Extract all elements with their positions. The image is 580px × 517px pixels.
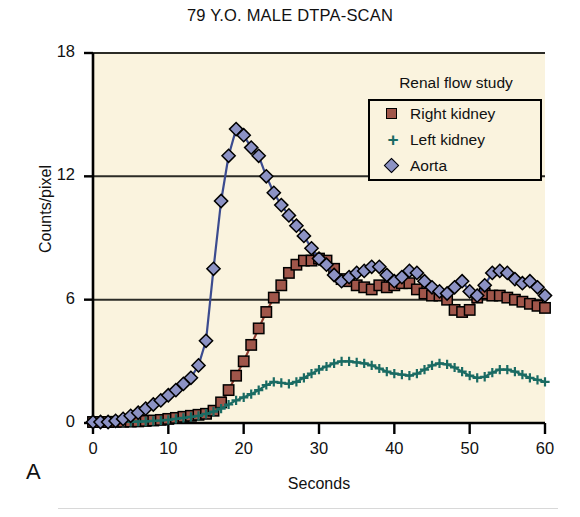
x-tick-label-50: 50 (450, 439, 490, 458)
marker-right-kidney-19 (231, 371, 241, 381)
marker-right-kidney-22 (254, 323, 264, 333)
figure-panel: 79 Y.O. MALE DTPA-SCAN Counts/pixel Seco… (0, 0, 580, 517)
x-tick-label-10: 10 (148, 439, 188, 458)
marker-right-kidney-24 (269, 292, 279, 302)
legend-label-aorta: Aorta (410, 157, 447, 175)
x-tick-label-40: 40 (374, 439, 414, 458)
diamond-marker-icon (382, 155, 404, 177)
y-tick-label-6: 6 (35, 289, 75, 308)
marker-right-kidney-21 (246, 340, 256, 350)
square-marker-icon (382, 103, 404, 125)
x-tick-label-60: 60 (525, 439, 565, 458)
footer-divider (58, 508, 558, 509)
marker-right-kidney-60 (540, 303, 550, 313)
legend-label-right-kidney: Right kidney (410, 105, 495, 123)
legend-item-aorta: Aorta (370, 153, 540, 179)
y-tick-label-18: 18 (35, 42, 75, 61)
x-axis-label: Seconds (93, 475, 545, 493)
legend-label-left-kidney: Left kidney (410, 131, 485, 149)
plus-marker-icon: + (382, 129, 404, 151)
legend-title: Renal flow study (368, 74, 544, 92)
marker-right-kidney-23 (261, 307, 271, 317)
legend-item-left-kidney: + Left kidney (370, 127, 540, 153)
x-tick-label-30: 30 (299, 439, 339, 458)
x-tick-label-0: 0 (73, 439, 113, 458)
marker-right-kidney-20 (239, 356, 249, 366)
marker-right-kidney-18 (223, 385, 233, 395)
panel-label: A (26, 459, 41, 485)
marker-right-kidney-50 (465, 305, 475, 315)
x-tick-label-20: 20 (224, 439, 264, 458)
y-tick-label-12: 12 (35, 165, 75, 184)
legend-item-right-kidney: Right kidney (370, 101, 540, 127)
y-axis-label: Counts/pixel (37, 119, 55, 299)
marker-right-kidney-25 (276, 280, 286, 290)
legend-box: Right kidney + Left kidney Aorta (368, 99, 542, 181)
y-tick-label-0: 0 (35, 412, 75, 431)
